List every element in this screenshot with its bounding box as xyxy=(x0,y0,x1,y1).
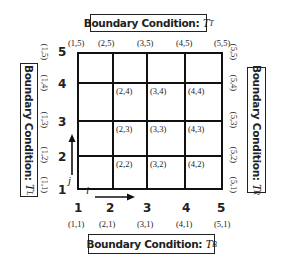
boundary-top-label: Boundary Condition: xyxy=(84,17,200,29)
bottom-node-label: (4,1) xyxy=(176,219,192,229)
y-tick: 3 xyxy=(58,115,66,129)
node-label: (2,2) xyxy=(116,159,132,169)
boundary-right-label: Boundary Condition: xyxy=(251,65,263,181)
node-label: (2,4) xyxy=(116,86,132,96)
left-node-label: (1,2) xyxy=(40,147,50,163)
right-node-label: (5,3) xyxy=(229,112,239,128)
boundary-bottom-label: Boundary Condition: xyxy=(86,238,202,250)
boundary-top-sub: T xyxy=(209,19,213,28)
boundary-right-box: Boundary Condition: TR xyxy=(247,67,266,193)
top-node-label: (2,5) xyxy=(98,38,114,48)
boundary-bottom-box: Boundary Condition: TB xyxy=(88,234,215,254)
boundary-bottom-sub: B xyxy=(212,240,217,249)
x-tick: 4 xyxy=(182,201,190,215)
left-node-label: (1,1) xyxy=(40,177,50,193)
bottom-node-label: (1,1) xyxy=(68,219,84,229)
j-direction-arrow-icon xyxy=(67,133,77,177)
i-axis-label: i xyxy=(86,184,89,196)
bottom-node-label: (2,1) xyxy=(99,219,115,229)
node-label: (3,3) xyxy=(150,124,166,134)
right-node-label: (5,2) xyxy=(229,147,239,163)
x-tick: 5 xyxy=(217,201,225,215)
x-tick: 1 xyxy=(74,201,82,215)
right-node-label: (5,4) xyxy=(229,75,239,91)
y-tick: 1 xyxy=(58,183,66,197)
left-node-label: (1,4) xyxy=(40,75,50,91)
bottom-node-label: (3,1) xyxy=(137,219,153,229)
left-node-label: (1,3) xyxy=(40,112,50,128)
x-tick: 3 xyxy=(143,201,151,215)
top-node-label: (3,5) xyxy=(137,38,153,48)
top-node-label: (5,5) xyxy=(214,38,230,48)
top-node-label: (1,5) xyxy=(68,38,84,48)
node-label: (4,2) xyxy=(188,159,204,169)
left-node-label: (1,5) xyxy=(40,44,50,60)
top-node-label: (4,5) xyxy=(176,38,192,48)
grid-line-h2 xyxy=(77,155,223,157)
right-node-label: (5,5) xyxy=(229,44,239,60)
y-tick: 5 xyxy=(58,45,66,59)
node-label: (3,4) xyxy=(150,86,166,96)
boundary-left-box: Boundary Condition: TL xyxy=(20,63,38,197)
node-label: (3,2) xyxy=(150,159,166,169)
y-tick: 2 xyxy=(58,150,66,164)
right-node-label: (5,1) xyxy=(229,177,239,193)
grid-line-h4 xyxy=(77,82,223,84)
i-direction-arrow-icon xyxy=(93,192,137,202)
boundary-left-sub: L xyxy=(25,191,34,195)
boundary-top-box: Boundary Condition: TT xyxy=(90,14,207,32)
node-label: (4,4) xyxy=(188,86,204,96)
bottom-node-label: (5,1) xyxy=(214,219,230,229)
boundary-right-sub: R xyxy=(252,190,261,195)
node-label: (2,3) xyxy=(116,124,132,134)
j-axis-label: j xyxy=(68,174,71,186)
grid-line-h3 xyxy=(77,120,223,122)
node-label: (4,3) xyxy=(188,124,204,134)
x-tick: 2 xyxy=(106,201,114,215)
boundary-left-label: Boundary Condition: xyxy=(23,65,35,181)
y-tick: 4 xyxy=(58,77,66,91)
